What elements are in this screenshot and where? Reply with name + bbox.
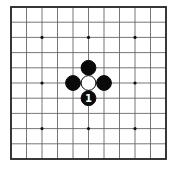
star-point-icon — [133, 81, 136, 84]
star-point-icon — [133, 127, 136, 130]
black-stone[interactable] — [66, 76, 81, 91]
move-number-label: 1 — [85, 93, 92, 104]
star-point-icon — [40, 127, 43, 130]
star-point-icon — [87, 127, 90, 130]
star-point-icon — [40, 36, 43, 39]
star-point-icon — [40, 81, 43, 84]
star-point-icon — [133, 36, 136, 39]
white-stone-icon — [81, 76, 96, 91]
black-stone[interactable] — [81, 60, 96, 75]
white-stone[interactable] — [81, 76, 96, 91]
star-point-icon — [87, 36, 90, 39]
black-stone[interactable]: 1 — [81, 91, 96, 106]
stones-layer: 1 — [66, 60, 112, 105]
go-board[interactable]: 1 — [0, 0, 169, 169]
black-stone-icon — [66, 76, 81, 91]
black-stone-icon — [97, 76, 112, 91]
black-stone[interactable] — [97, 76, 112, 91]
black-stone-icon — [81, 60, 96, 75]
